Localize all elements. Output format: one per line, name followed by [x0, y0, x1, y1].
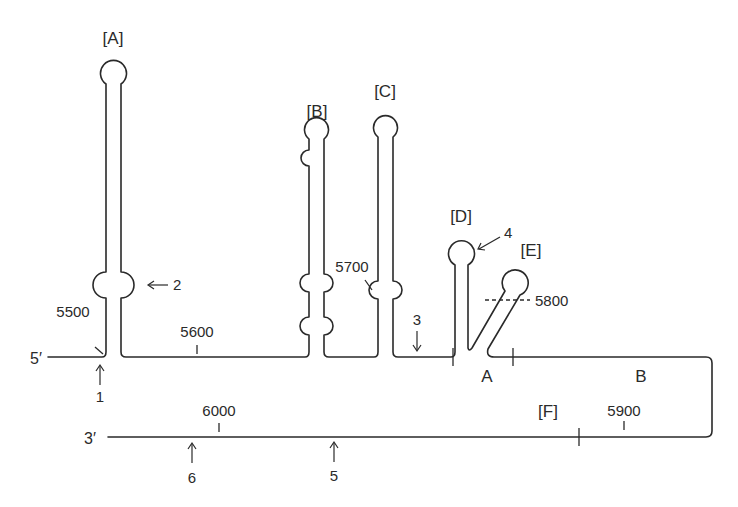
- rna-strand: [48, 60, 712, 437]
- site-2-label: 2: [173, 276, 181, 293]
- three-prime-end-label: 3′: [84, 430, 96, 447]
- site-5-arrow-icon: [330, 442, 338, 462]
- site-4-arrow-icon: [478, 237, 500, 250]
- hairpin-d-label: [D]: [450, 207, 472, 226]
- site-1-arrow-icon: [96, 365, 104, 385]
- site-2-arrow-icon: [148, 281, 168, 289]
- region-f-label: [F]: [538, 402, 558, 421]
- site-3-arrow-icon: [413, 331, 421, 351]
- position-5700-label: 5700: [335, 258, 368, 275]
- site-6-label: 6: [188, 469, 196, 486]
- site-3-label: 3: [413, 311, 421, 328]
- position-5600-label: 5600: [180, 323, 213, 340]
- hairpin-a-label: [A]: [103, 29, 124, 48]
- site-6-arrow-icon: [188, 443, 196, 463]
- position-5500-tick: [95, 347, 103, 354]
- position-6000-label: 6000: [202, 402, 235, 419]
- rna-secondary-structure-diagram: [A] [B] [C] [D] [E] 5′ 3′ 5500 5600 5700…: [0, 0, 738, 507]
- hairpin-e-label: [E]: [521, 241, 542, 260]
- five-prime-end-label: 5′: [30, 350, 42, 367]
- site-5-label: 5: [330, 467, 338, 484]
- position-5900-label: 5900: [607, 402, 640, 419]
- region-b-label: B: [635, 367, 646, 386]
- hairpin-b-label: [B]: [307, 102, 328, 121]
- region-a-label: A: [481, 367, 493, 386]
- position-5800-label: 5800: [535, 292, 568, 309]
- hairpin-c-label: [C]: [374, 82, 396, 101]
- site-1-label: 1: [96, 388, 104, 405]
- position-5500-label: 5500: [56, 303, 89, 320]
- site-4-label: 4: [504, 224, 512, 241]
